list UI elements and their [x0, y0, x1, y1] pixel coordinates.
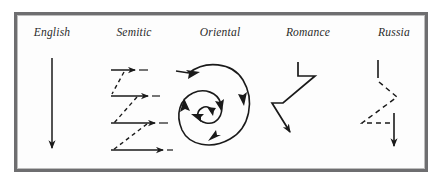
column-label-romance: Romance: [286, 26, 330, 38]
figure-frame-inner-rule: [17, 15, 425, 169]
column-label-oriental: Oriental: [200, 26, 241, 38]
column-label-russia: Russia: [378, 26, 410, 38]
column-label-semitic: Semitic: [116, 26, 151, 38]
column-label-english: English: [34, 26, 71, 38]
figure-canvas: English Semitic Oriental Romance Russia: [0, 0, 445, 183]
